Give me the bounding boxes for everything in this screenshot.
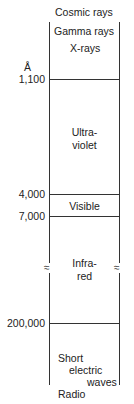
- region-radio-line4: Radio: [58, 388, 85, 400]
- label-x-rays: X-rays: [70, 42, 100, 54]
- tick-4000: 4,000: [19, 188, 45, 200]
- region-radio-line1: Short: [58, 352, 83, 364]
- region-visible: Visible: [49, 200, 120, 212]
- region-radio-line2: electric: [69, 364, 102, 376]
- tick-7000: 7,000: [19, 210, 45, 222]
- boundary-1100: [49, 79, 120, 80]
- tick-200000: 200,000: [7, 317, 45, 329]
- label-gamma-rays: Gamma rays: [54, 25, 114, 37]
- region-ultraviolet-line1: Ultra-: [49, 126, 120, 138]
- region-radio-line3: waves: [87, 376, 117, 388]
- boundary-7000: [49, 216, 120, 217]
- label-cosmic-rays: Cosmic rays: [55, 6, 113, 18]
- region-infrared-line1: Infra-: [49, 257, 120, 269]
- region-ultraviolet-line2: violet: [49, 139, 120, 151]
- unit-angstrom: Å: [24, 61, 31, 73]
- region-infrared-line2: red: [49, 270, 120, 282]
- boundary-200000: [49, 323, 120, 324]
- tick-1100: 1,100: [19, 73, 45, 85]
- boundary-4000: [49, 194, 120, 195]
